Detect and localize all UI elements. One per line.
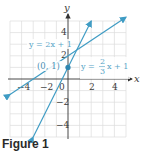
y-tick-label: −2 — [56, 97, 69, 107]
equation-label-line-2-prefix: y = — [80, 62, 95, 71]
equation-label-line-2-suffix: x + 1 — [107, 62, 128, 71]
figure-caption: Figure 1 — [2, 137, 49, 151]
equation-label-line-2-numerator: 2 — [100, 57, 105, 66]
equation-label-line-1: y = 2x + 1 — [28, 40, 72, 49]
y-tick-label: −4 — [56, 120, 70, 130]
x-tick-label: 2 — [89, 82, 95, 92]
x-tick-label: 4 — [112, 82, 118, 92]
x-tick-label: −4 — [17, 82, 31, 92]
point-label: (0, 1) — [37, 61, 60, 71]
coordinate-plane-figure: x y −4 −2 0 2 4 4 2 −2 −4 y = 2x + 1 (0,… — [0, 0, 142, 155]
x-axis-label: x — [134, 73, 140, 84]
y-axis-label: y — [63, 2, 70, 13]
y-tick-label: 4 — [61, 27, 67, 37]
intersection-point — [65, 65, 70, 70]
equation-label-line-2-denominator: 3 — [100, 67, 105, 76]
x-tick-label: −2 — [40, 82, 53, 92]
